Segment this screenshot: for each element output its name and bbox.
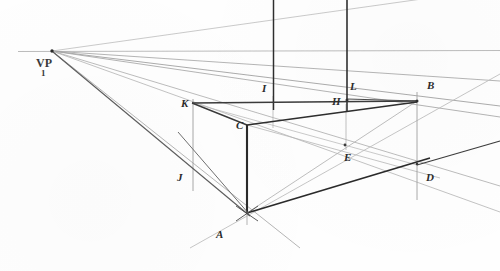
vertex-dot-L (346, 99, 349, 102)
point-label-c: C (236, 119, 243, 131)
vp-ray-to-B (52, 51, 500, 81)
point-label-k: K (181, 97, 188, 109)
edge-bottom-left-of-A (178, 132, 249, 214)
edge-A-to-D (247, 158, 430, 213)
vertex-dot-VP (50, 49, 53, 52)
point-label-b: B (427, 79, 434, 91)
vp-ray-upper (52, 0, 500, 51)
edge-D-extension-right (417, 141, 500, 165)
sketch-vector-layer (0, 0, 500, 271)
point-label-h: H (332, 95, 341, 107)
edge-K-to-B-top-back (192, 101, 417, 103)
vp-ray-through-E-D (52, 51, 500, 186)
point-label-l: L (350, 80, 357, 92)
vp-ray-through-A (52, 51, 300, 248)
point-label-i: I (262, 82, 266, 94)
vertex-dot-E (344, 144, 347, 147)
vanishing-point-subscript: 1 (41, 68, 46, 78)
perspective-sketch-canvas: VP 1 ABCDEHIJKL (0, 0, 500, 271)
vertex-dot-D (416, 163, 419, 166)
point-label-a: A (216, 228, 223, 240)
vp-ray-dark-to-A (53, 52, 250, 216)
point-label-e: E (344, 151, 351, 163)
point-label-j: J (177, 171, 183, 183)
vp-ray-lower-far (52, 51, 500, 212)
horizon-line (18, 51, 500, 52)
diagonal-K-to-E (192, 103, 417, 165)
vertex-dot-B (416, 100, 419, 103)
point-label-d: D (426, 171, 434, 183)
